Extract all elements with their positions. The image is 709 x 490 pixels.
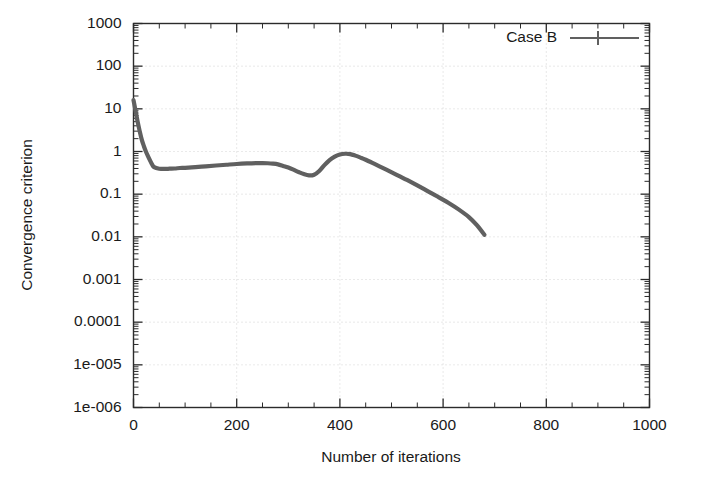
x-tick-label: 600 xyxy=(430,416,456,433)
x-tick-label: 1000 xyxy=(632,416,667,433)
x-axis-title: Number of iterations xyxy=(321,448,461,465)
legend-label-case-b: Case B xyxy=(506,28,557,45)
y-tick-label: 0.001 xyxy=(83,270,122,287)
chart-canvas: 10001001010.10.010.0010.00011e-0051e-006… xyxy=(0,0,709,490)
x-tick-label: 200 xyxy=(224,416,250,433)
y-axis-title: Convergence criterion xyxy=(18,139,35,291)
y-tick-label: 100 xyxy=(96,56,122,73)
y-tick-label: 1 xyxy=(113,142,122,159)
x-tick-label: 400 xyxy=(327,416,353,433)
convergence-plot-figure: 10001001010.10.010.0010.00011e-0051e-006… xyxy=(0,0,709,490)
y-tick-label: 0.01 xyxy=(91,227,121,244)
y-tick-label: 1000 xyxy=(87,14,122,31)
x-tick-label: 800 xyxy=(533,416,559,433)
y-tick-label: 10 xyxy=(104,99,122,116)
y-tick-label: 1e-005 xyxy=(73,355,121,372)
y-tick-label: 1e-006 xyxy=(73,398,121,415)
y-tick-label: 0.0001 xyxy=(74,312,121,329)
y-tick-label: 0.1 xyxy=(100,184,122,201)
figure-background xyxy=(0,0,709,490)
x-tick-label: 0 xyxy=(129,416,138,433)
